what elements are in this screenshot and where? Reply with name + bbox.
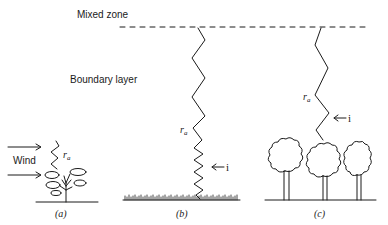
- interface-label-c: i: [348, 113, 351, 124]
- panel-b-grass: [123, 28, 240, 200]
- panel-a-plant: [8, 141, 98, 202]
- boundary-layer-diagram: [0, 0, 388, 225]
- tree-1-crown: [268, 138, 303, 172]
- resistance-zigzag-a: [51, 141, 59, 169]
- grass-blades: [125, 195, 237, 200]
- resistance-zigzag-c: [315, 28, 329, 140]
- tree-2-trunk: [323, 176, 327, 200]
- panel-b-caption: (b): [176, 209, 188, 219]
- interface-label-b: i: [226, 162, 229, 173]
- resistance-label-c: ra: [303, 92, 310, 104]
- tree-3-trunk: [357, 175, 361, 200]
- boundary-layer-label: Boundary layer: [70, 75, 137, 85]
- resistance-zigzag-b: [192, 28, 205, 199]
- resistance-label-a: ra: [63, 150, 70, 162]
- panel-a-caption: (a): [55, 209, 67, 219]
- tree-1-trunk: [284, 171, 289, 200]
- tree-3-crown: [344, 141, 372, 175]
- panel-c-trees: [265, 28, 376, 200]
- wind-label: Wind: [13, 156, 36, 166]
- tree-2-crown: [306, 143, 341, 177]
- resistance-label-b: ra: [180, 125, 187, 137]
- mixed-zone-label: Mixed zone: [77, 10, 128, 20]
- panel-c-caption: (c): [314, 209, 325, 219]
